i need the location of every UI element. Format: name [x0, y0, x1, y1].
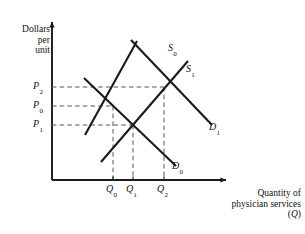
curve-label-base-d1: D: [209, 121, 216, 132]
x-axis-title-line-2: physician services: [200, 199, 301, 210]
x-tick-base-q2: Q: [157, 183, 164, 194]
x-axis-title: Quantity of physician services (Q): [200, 188, 301, 220]
y-axis-title-line-2: per: [6, 35, 50, 46]
y-tick-sub-p1: 1: [39, 126, 43, 134]
x-tick-sub-q0: 0: [114, 191, 118, 199]
x-tick-base-q0: Q: [106, 183, 113, 194]
x-tick-sub-q2: 2: [165, 191, 169, 199]
y-tick-label-p1: P1: [33, 118, 43, 133]
curve-label-base-d0: D: [172, 160, 179, 171]
x-axis-title-line-1: Quantity of: [200, 188, 301, 199]
x-tick-base-q1: Q: [126, 183, 133, 194]
x-axis-title-symbol: (Q): [200, 209, 301, 220]
curve-label-d0: D0: [172, 160, 183, 175]
y-tick-sub-p2: 2: [39, 88, 43, 96]
curve-supply-s1: [101, 61, 188, 162]
y-tick-label-p2: P2: [33, 80, 43, 95]
curve-label-s0: S0: [168, 42, 177, 57]
y-tick-sub-p0: 0: [39, 107, 43, 115]
x-tick-label-q2: Q2: [157, 183, 168, 198]
curve-label-d1: D1: [209, 121, 220, 136]
x-tick-sub-q1: 1: [134, 191, 138, 199]
y-axis-title-line-3: unit: [6, 45, 50, 56]
x-tick-label-q0: Q0: [106, 183, 117, 198]
curve-label-sub-s0: 0: [173, 50, 177, 58]
x-tick-label-q1: Q1: [126, 183, 137, 198]
y-axis-title: Dollars per unit: [6, 24, 50, 56]
curve-label-sub-s1: 1: [191, 71, 195, 79]
curve-label-s1: S1: [186, 63, 195, 78]
y-axis-title-line-1: Dollars: [6, 24, 50, 35]
supply-demand-figure: Dollars per unit Quantity of physician s…: [0, 0, 305, 234]
y-tick-label-p0: P0: [33, 99, 43, 114]
curve-label-sub-d1: 1: [217, 129, 221, 137]
curve-label-sub-d0: 0: [180, 168, 184, 176]
x-axis-symbol-letter: Q: [291, 209, 298, 219]
